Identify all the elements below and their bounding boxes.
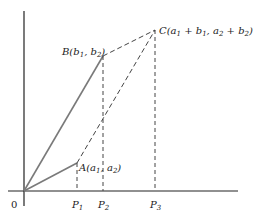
- tick-label-p1: P1: [71, 199, 83, 212]
- point-c-label: C(a1 + b1, a2 + b2): [159, 25, 253, 38]
- origin-label: 0: [11, 199, 17, 210]
- point-b-label: B(b1, b2): [61, 46, 105, 59]
- tick-label-p2: P2: [97, 199, 110, 212]
- vector-addition-diagram: 0 A(a1, a2) B(b1, b2) C(a1 + b1, a2 + b2…: [0, 0, 253, 218]
- point-a-label: A(a1, a2): [78, 162, 121, 175]
- tick-label-p3: P3: [149, 199, 162, 212]
